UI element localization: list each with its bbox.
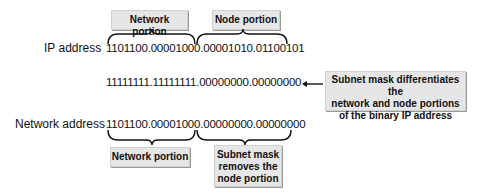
bottom-mask-line1: Subnet mask: [215, 149, 281, 161]
bottom-network-brace: [106, 130, 196, 146]
mask-note-line1: Subnet mask differentiates the: [326, 74, 465, 98]
mask-note-line2: network and node portions: [326, 98, 465, 110]
bottom-mask-callout: Subnet mask removes the node portion: [214, 145, 282, 187]
bottom-mask-brace: [195, 130, 295, 146]
bottom-mask-line2: removes the: [215, 161, 281, 173]
arrow-left-icon: [302, 79, 324, 89]
node-portion-box: Node portion: [212, 10, 280, 30]
network-address-label: Network address: [15, 117, 105, 131]
mask-note-line3: of the binary IP address: [326, 110, 465, 122]
bottom-network-portion-box: Network portion: [110, 147, 190, 167]
ip-address-bits: 1101100.00001000.00001010.01100101: [106, 42, 305, 54]
bottom-mask-line3: node portion: [215, 173, 281, 185]
mask-note-callout: Subnet mask differentiates the network a…: [325, 71, 466, 111]
network-address-bits: 1101100.00001000.00000000.00000000: [106, 118, 305, 130]
ip-address-label: IP address: [44, 41, 101, 55]
network-portion-box: Network portion: [111, 10, 188, 30]
node-portion-label: Node portion: [215, 14, 277, 25]
subnet-mask-bits: 11111111.11111111.00000000.00000000: [106, 76, 301, 88]
bottom-network-portion-label: Network portion: [112, 151, 189, 162]
